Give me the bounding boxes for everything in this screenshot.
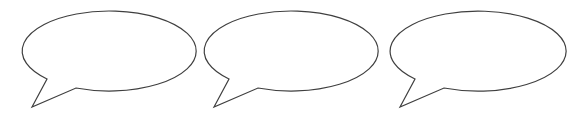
speech-bubbles-graphic bbox=[0, 0, 583, 117]
speech-bubble-1 bbox=[22, 11, 196, 107]
speech-bubble-icon bbox=[204, 11, 378, 107]
speech-bubble-icon bbox=[22, 11, 196, 107]
speech-bubble-2 bbox=[204, 11, 378, 107]
speech-bubble-icon bbox=[390, 11, 566, 107]
speech-bubble-3 bbox=[390, 11, 566, 107]
speech-bubbles-canvas bbox=[0, 0, 583, 117]
